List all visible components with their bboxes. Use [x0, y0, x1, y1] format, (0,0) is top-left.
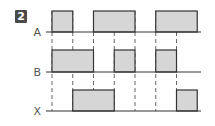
- signal-label: A: [33, 26, 41, 39]
- pulse: [114, 50, 135, 72]
- pulse: [73, 90, 115, 111]
- pulse: [94, 11, 136, 32]
- pulse: [52, 11, 73, 32]
- timing-diagram: ABX: [0, 0, 215, 126]
- signal-a: A: [33, 11, 201, 39]
- pulse: [52, 50, 94, 72]
- signal-b: B: [33, 50, 201, 79]
- pulse: [177, 90, 198, 111]
- pulse: [156, 11, 198, 32]
- pulse: [156, 50, 177, 72]
- signal-label: X: [33, 105, 41, 118]
- signal-label: B: [33, 66, 41, 79]
- signal-x: X: [33, 90, 201, 118]
